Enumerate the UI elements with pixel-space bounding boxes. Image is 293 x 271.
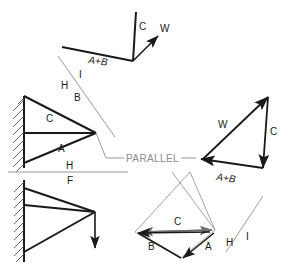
label-member-c-upper: C xyxy=(46,113,53,124)
member-lower-lower-view xyxy=(24,212,95,252)
fold-line-h-f: H F xyxy=(8,160,128,186)
label-member-b-upper: B xyxy=(74,92,81,103)
fold-line-hi-upper-stroke xyxy=(58,56,115,137)
fold-line-h-i-upper: H I xyxy=(58,56,115,137)
label-force-b-bottom: B xyxy=(148,241,155,252)
wall-hatching-lower xyxy=(14,182,24,262)
force-w-arrow xyxy=(203,97,268,159)
label-fold-h-top: H xyxy=(66,160,73,171)
member-b-upper xyxy=(24,96,96,133)
parallel-leader-left xyxy=(96,133,124,158)
vector-w-arrow xyxy=(133,36,158,61)
label-force-c-bottom: C xyxy=(174,216,181,227)
parallel-annotation: PARALLEL xyxy=(96,133,196,164)
fold-line-h-i-lower: H I xyxy=(226,196,263,252)
label-fold-i-lower: I xyxy=(246,231,249,242)
label-member-a-upper: A xyxy=(58,143,65,154)
horizontal-view-bracket: B C A xyxy=(13,92,96,172)
label-parallel: PARALLEL xyxy=(126,153,179,164)
wall-hatching-upper xyxy=(13,98,24,172)
engineering-diagram: C W A+B H I xyxy=(0,0,293,271)
diagram-canvas: C W A+B H I xyxy=(0,0,293,271)
auxiliary-vector-view: C W A+B xyxy=(62,12,170,68)
force-b-leg xyxy=(138,233,181,258)
label-vector-ab: A+B xyxy=(87,54,109,68)
force-polygon-triangle: W C A+B xyxy=(201,97,277,185)
label-force-w: W xyxy=(218,119,228,130)
force-b-bottom-arrow xyxy=(138,232,210,233)
force-polygon-bottom: C B A xyxy=(138,216,214,258)
label-force-ab: A+B xyxy=(215,171,237,185)
construction-lines-bottom xyxy=(135,172,215,258)
label-fold-h-upper: H xyxy=(61,80,68,91)
label-force-c: C xyxy=(270,126,277,137)
label-force-a-bottom: A xyxy=(205,241,212,252)
vector-c-line xyxy=(133,12,136,61)
force-ab-arrow xyxy=(201,159,263,168)
label-vector-c: C xyxy=(139,21,146,32)
label-fold-h-lower: H xyxy=(226,237,233,248)
force-c-arrow xyxy=(263,97,268,168)
label-fold-f: F xyxy=(67,175,73,186)
label-vector-w: W xyxy=(160,23,170,34)
frontal-view-bracket xyxy=(14,180,95,262)
label-fold-i-upper: I xyxy=(79,69,82,80)
